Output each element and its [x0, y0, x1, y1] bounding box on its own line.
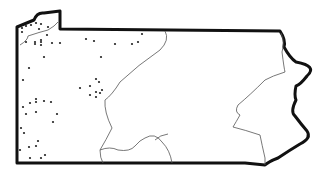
occurrence-dot: [95, 78, 97, 80]
occurrence-dot: [40, 44, 42, 46]
occurrence-dot: [29, 102, 31, 104]
occurrence-dot: [30, 24, 32, 26]
occurrence-dots: [19, 22, 143, 159]
occurrence-dot: [100, 56, 102, 58]
occurrence-dot: [56, 113, 58, 115]
occurrence-dot: [131, 43, 133, 45]
occurrence-dot: [141, 33, 143, 35]
occurrence-dot: [23, 132, 25, 134]
occurrence-dot: [22, 106, 24, 108]
occurrence-dot: [35, 111, 37, 113]
occurrence-dot: [29, 157, 31, 159]
occurrence-dot: [43, 56, 45, 58]
occurrence-dot: [101, 89, 103, 91]
occurrence-dot: [95, 91, 97, 93]
occurrence-dot: [25, 41, 27, 43]
occurrence-dot: [51, 42, 53, 44]
occurrence-dot: [20, 127, 22, 129]
occurrence-dot: [35, 22, 37, 24]
occurrence-dot: [98, 81, 100, 83]
occurrence-dot: [35, 98, 37, 100]
occurrence-dot: [25, 25, 27, 27]
ridge-valley-line: [100, 136, 172, 163]
occurrence-dot: [79, 87, 81, 89]
occurrence-dot: [114, 43, 116, 45]
occurrence-dot: [34, 41, 36, 43]
occurrence-dot: [46, 34, 48, 36]
occurrence-dot: [22, 79, 24, 81]
occurrence-dot: [47, 26, 49, 28]
occurrence-dot: [34, 43, 36, 45]
occurrence-dot: [93, 40, 95, 42]
occurrence-dot: [137, 41, 139, 43]
occurrence-dot: [52, 121, 54, 123]
occurrence-dot: [44, 154, 46, 156]
occurrence-dot: [40, 39, 42, 41]
pennsylvania-map: [0, 0, 329, 178]
occurrence-dot: [38, 28, 40, 30]
occurrence-dot: [89, 85, 91, 87]
occurrence-dot: [85, 38, 87, 40]
occurrence-dot: [89, 94, 91, 96]
occurrence-dot: [25, 113, 27, 115]
occurrence-dot: [59, 42, 61, 44]
occurrence-dot: [28, 67, 30, 69]
occurrence-dot: [50, 101, 52, 103]
state-outline: [17, 11, 311, 165]
occurrence-dot: [95, 96, 97, 98]
occurrence-dot: [21, 31, 23, 33]
occurrence-dot: [43, 100, 45, 102]
occurrence-dot: [21, 27, 23, 29]
occurrence-dot: [19, 149, 21, 151]
allegheny-front-line: [100, 31, 167, 163]
occurrence-dot: [40, 41, 42, 43]
occurrence-dot: [99, 92, 101, 94]
occurrence-dot: [35, 145, 37, 147]
occurrence-dot: [37, 140, 39, 142]
piedmont-line: [233, 33, 285, 165]
occurrence-dot: [40, 23, 42, 25]
occurrence-dot: [35, 101, 37, 103]
occurrence-dot: [40, 157, 42, 159]
occurrence-dot: [28, 146, 30, 148]
